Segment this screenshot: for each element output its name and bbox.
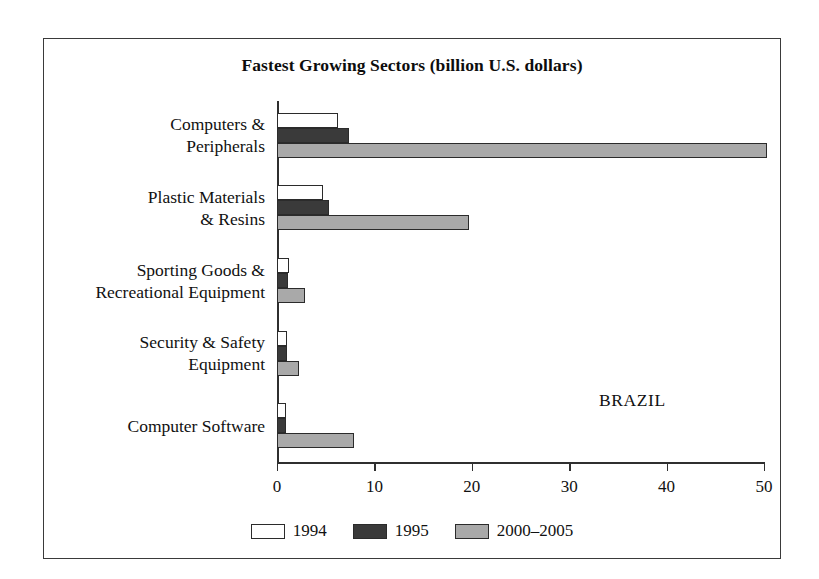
x-tick-label: 50 — [756, 477, 773, 497]
x-axis-line — [277, 462, 765, 464]
legend-swatch-icon — [353, 524, 387, 539]
bar-group: Computer Software — [277, 403, 765, 448]
category-label: Plastic Materials & Resins — [5, 186, 265, 230]
bar-1994 — [277, 331, 287, 346]
legend-entry[interactable]: 2000–2005 — [455, 521, 574, 541]
x-tick-label: 30 — [561, 477, 578, 497]
bar-2000-2005 — [277, 215, 469, 230]
bar-1995 — [277, 200, 329, 215]
legend-label: 2000–2005 — [497, 521, 574, 541]
x-tick-label: 10 — [366, 477, 383, 497]
category-label: Computers & Peripherals — [5, 113, 265, 157]
x-tick-label: 40 — [658, 477, 675, 497]
bar-1995 — [277, 346, 287, 361]
plot-area: 01020304050 Computers & PeripheralsPlast… — [277, 101, 765, 464]
chart-title: Fastest Growing Sectors (billion U.S. do… — [44, 55, 780, 76]
bar-group: Plastic Materials & Resins — [277, 185, 765, 230]
legend-entry[interactable]: 1995 — [353, 521, 429, 541]
bar-2000-2005 — [277, 361, 299, 376]
chart-legend: 199419952000–2005 — [44, 521, 780, 541]
bar-1995 — [277, 128, 349, 143]
legend-entry[interactable]: 1994 — [251, 521, 327, 541]
x-tick-label: 0 — [273, 477, 282, 497]
bar-2000-2005 — [277, 288, 305, 303]
category-label: Computer Software — [5, 415, 265, 437]
bar-2000-2005 — [277, 433, 354, 448]
bar-1995 — [277, 418, 286, 433]
bar-group: Computers & Peripherals — [277, 113, 765, 158]
bar-1994 — [277, 185, 323, 200]
x-tick-mark — [569, 463, 570, 471]
x-tick-mark — [472, 463, 473, 471]
bar-2000-2005 — [277, 143, 767, 158]
bar-1994 — [277, 403, 286, 418]
legend-swatch-icon — [455, 524, 489, 539]
bar-1994 — [277, 258, 289, 273]
bar-1994 — [277, 113, 338, 128]
x-tick-mark — [374, 463, 375, 471]
legend-label: 1994 — [293, 521, 327, 541]
chart-figure: Fastest Growing Sectors (billion U.S. do… — [43, 38, 781, 559]
x-tick-mark — [277, 463, 278, 471]
x-tick-label: 20 — [463, 477, 480, 497]
x-tick-mark — [764, 463, 765, 471]
bar-group: Security & Safety Equipment — [277, 331, 765, 376]
category-label: Sporting Goods & Recreational Equipment — [5, 259, 265, 303]
bar-group: Sporting Goods & Recreational Equipment — [277, 258, 765, 303]
legend-swatch-icon — [251, 524, 285, 539]
x-tick-mark — [667, 463, 668, 471]
category-label: Security & Safety Equipment — [5, 331, 265, 375]
bar-1995 — [277, 273, 288, 288]
country-annotation: BRAZIL — [599, 390, 666, 411]
legend-label: 1995 — [395, 521, 429, 541]
